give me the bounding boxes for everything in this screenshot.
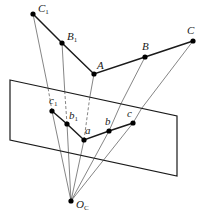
point-a	[81, 137, 86, 142]
ray-B-lower	[71, 131, 109, 201]
ray-C-upper	[142, 41, 193, 108]
point-Oc	[68, 198, 73, 203]
ray-B1-lower	[67, 124, 71, 201]
point-b1	[64, 121, 69, 126]
point-C1	[30, 11, 35, 16]
label-C: C	[187, 24, 195, 36]
label-B1: B1	[67, 30, 78, 44]
ray-A-upper	[90, 74, 94, 97]
ray-C1-upper	[33, 14, 48, 88]
ray-A-lower	[71, 140, 84, 201]
label-c1: c1	[49, 94, 58, 108]
point-A	[91, 71, 96, 76]
label-c: c	[127, 107, 132, 119]
projection-diagram: C1B1ABCc1b1abcOC	[0, 0, 205, 218]
point-c	[130, 120, 135, 125]
ray-B1-inside	[65, 92, 67, 124]
ray-B1-upper	[62, 43, 65, 92]
polylines	[33, 14, 193, 140]
ray-C-lower	[71, 123, 133, 201]
label-b1: b1	[69, 109, 79, 123]
object-polyline	[33, 14, 193, 74]
label-b: b	[105, 115, 111, 127]
label-C1: C1	[38, 2, 49, 16]
point-B	[142, 54, 147, 59]
label-a: a	[85, 124, 91, 136]
label-Oc: OC	[76, 198, 89, 212]
image-polyline	[52, 111, 133, 140]
label-A: A	[96, 59, 104, 71]
point-b	[106, 128, 111, 133]
point-C	[190, 38, 195, 43]
point-c1	[49, 108, 54, 113]
point-B1	[59, 40, 64, 45]
label-B: B	[142, 40, 149, 52]
point-labels: C1B1ABCc1b1abcOC	[38, 2, 195, 212]
